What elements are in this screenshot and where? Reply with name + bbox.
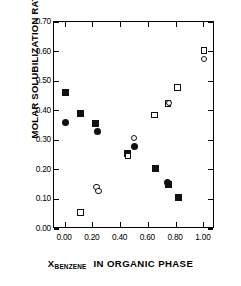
x-axis-tick	[92, 222, 93, 227]
data-point-open-square	[125, 153, 131, 159]
y-axis-tick	[54, 81, 59, 82]
y-axis-tick	[208, 51, 213, 52]
data-point-open-square	[77, 209, 83, 215]
data-point-filled-square	[152, 165, 159, 172]
scatter-chart-figure: 0.000.100.200.300.400.500.600.700.000.20…	[0, 0, 241, 286]
y-axis-tick-label: 0.10	[17, 194, 51, 202]
x-axis-title-symbol: X	[48, 258, 55, 269]
y-axis-tick	[54, 21, 59, 22]
y-axis-tick	[54, 110, 59, 111]
x-axis-tick	[65, 22, 66, 27]
y-axis-tick	[54, 228, 59, 229]
y-axis-tick	[208, 169, 213, 170]
y-axis-tick-label: 0.00	[17, 224, 51, 232]
y-axis-tick	[208, 199, 213, 200]
x-axis-tick	[148, 222, 149, 227]
plot-area	[53, 21, 214, 228]
x-axis-tick	[203, 222, 204, 227]
data-point-open-circle	[166, 100, 172, 106]
data-point-filled-circle	[62, 119, 69, 126]
y-axis-tick-label: 0.20	[17, 165, 51, 173]
data-point-filled-circle	[94, 128, 101, 135]
data-point-filled-square	[62, 89, 69, 96]
y-axis-tick	[54, 199, 59, 200]
x-axis-tick	[92, 22, 93, 27]
data-point-filled-circle	[164, 179, 171, 186]
x-axis-title-subscript: BENZENE	[55, 263, 87, 270]
x-axis-tick	[176, 22, 177, 27]
data-point-open-square	[201, 47, 207, 53]
x-axis-tick	[65, 222, 66, 227]
data-point-filled-circle	[131, 143, 138, 150]
y-axis-tick	[208, 110, 213, 111]
y-axis-tick	[208, 140, 213, 141]
data-point-filled-square	[175, 194, 182, 201]
y-axis-tick	[208, 21, 213, 22]
y-axis-tick	[54, 51, 59, 52]
y-axis-tick	[54, 140, 59, 141]
data-point-open-circle	[95, 188, 101, 194]
y-axis-title: MOLAR SOLUBILIZATION RATIO	[29, 0, 40, 160]
data-point-filled-square	[77, 110, 84, 117]
data-point-filled-square	[92, 120, 99, 127]
x-axis-tick	[176, 222, 177, 227]
x-axis-tick-label: 1.00	[186, 233, 220, 241]
x-axis-tick	[120, 222, 121, 227]
x-axis-tick	[120, 22, 121, 27]
data-point-open-square	[174, 84, 180, 90]
y-axis-tick	[208, 81, 213, 82]
x-axis-tick	[203, 22, 204, 27]
x-axis-title: XBENZENEIN ORGANIC PHASE	[0, 258, 241, 270]
data-point-open-circle	[131, 135, 137, 141]
data-point-open-square	[151, 112, 157, 118]
y-axis-tick	[54, 169, 59, 170]
y-axis-tick	[208, 228, 213, 229]
x-axis-title-rest: IN ORGANIC PHASE	[94, 258, 194, 269]
x-axis-tick	[148, 22, 149, 27]
data-point-open-circle	[201, 56, 207, 62]
